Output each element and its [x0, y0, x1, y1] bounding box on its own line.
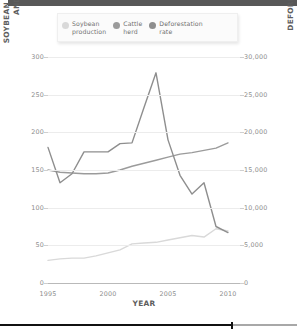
- y-tick-label-left-150: 150: [31, 166, 44, 174]
- gridline-50: [48, 245, 240, 246]
- legend-item-cattle[interactable]: Cattle herd: [113, 20, 142, 35]
- legend-swatch-soybean: [62, 22, 69, 29]
- y-tick-mark-left-250: [44, 95, 48, 96]
- y-tick-label-left-0: 0: [40, 279, 44, 287]
- legend-item-soybean[interactable]: Soybean production: [62, 20, 106, 35]
- legend-label-soybean: Soybean production: [72, 20, 106, 35]
- y-tick-label-left-200: 200: [31, 128, 44, 136]
- x-axis-title: YEAR: [48, 299, 240, 308]
- y-axis-left-title-line1: SOYBEAN PRODUCTION (MILLION METRIC TONS): [2, 0, 12, 48]
- y-tick-label-right-300: 30,000: [244, 53, 268, 61]
- chart-plot-area: 00505,00010010,00015015,00020020,0002502…: [48, 50, 240, 290]
- y-tick-label-right-150: 15,000: [244, 166, 268, 174]
- y-tick-mark-left-200: [44, 132, 48, 133]
- gridline-0: [48, 283, 240, 284]
- progress-scrubber[interactable]: [0, 322, 297, 328]
- chart-canvas: 00505,00010010,00015015,00020020,0002502…: [48, 57, 240, 283]
- legend-label-cattle: Cattle herd: [123, 20, 142, 35]
- gridline-200: [48, 132, 240, 133]
- y-tick-label-left-250: 250: [31, 91, 44, 99]
- legend-swatch-deforestation: [149, 22, 156, 29]
- y-axis-left-title-line2: AND CATTLE HERD (MILLION HEAD): [12, 0, 22, 48]
- legend-item-deforestation[interactable]: Deforestation rate: [149, 20, 202, 35]
- gridline-250: [48, 95, 240, 96]
- y-axis-right-title: DEFORESTATION RATE (KM²/YEAR): [286, 0, 295, 62]
- y-tick-label-left-100: 100: [31, 204, 44, 212]
- y-tick-label-left-300: 300: [31, 53, 44, 61]
- y-tick-label-right-250: 25,000: [244, 91, 268, 99]
- gridline-100: [48, 208, 240, 209]
- y-tick-label-right-50: 5,000: [244, 241, 263, 249]
- y-axis-left-title: SOYBEAN PRODUCTION (MILLION METRIC TONS)…: [2, 0, 22, 48]
- chart-legend: Soybean production Cattle herd Deforesta…: [57, 13, 238, 42]
- y-tick-mark-left-50: [44, 245, 48, 246]
- gridline-150: [48, 170, 240, 171]
- x-tick-label-2010: 2010: [219, 290, 236, 298]
- y-tick-mark-left-100: [44, 208, 48, 209]
- y-tick-mark-left-300: [44, 57, 48, 58]
- y-tick-label-left-50: 50: [35, 241, 44, 249]
- header-bar: [8, 0, 297, 6]
- x-tick-label-2005: 2005: [159, 290, 176, 298]
- scrubber-fill: [0, 324, 232, 326]
- scrubber-handle[interactable]: [231, 322, 233, 329]
- x-tick-label-2000: 2000: [99, 290, 116, 298]
- legend-swatch-cattle: [113, 22, 120, 29]
- y-tick-mark-left-0: [44, 283, 48, 284]
- legend-label-deforestation: Deforestation rate: [159, 20, 202, 35]
- y-tick-label-right-0: 0: [244, 279, 248, 287]
- y-tick-label-right-100: 10,000: [244, 204, 268, 212]
- y-tick-mark-left-150: [44, 170, 48, 171]
- gridline-300: [48, 57, 240, 58]
- x-tick-label-1995: 1995: [39, 290, 56, 298]
- y-tick-label-right-200: 20,000: [244, 128, 268, 136]
